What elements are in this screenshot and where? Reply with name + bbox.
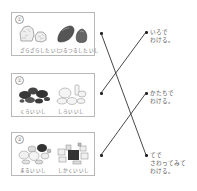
left-dot-2[interactable]: [100, 92, 103, 95]
method-shape-line2: わける。: [150, 97, 174, 105]
method-touch-line2: さわってみて: [150, 159, 186, 167]
method-label-color: いろで わける。: [150, 28, 174, 44]
method-color-line1: いろで: [150, 28, 174, 36]
method-label-shape: かたちで わける。: [150, 89, 174, 105]
connection-line-2: [101, 32, 146, 93]
method-color-line2: わける。: [150, 36, 174, 44]
right-dot-3[interactable]: [145, 154, 148, 157]
method-shape-line1: かたちで: [150, 89, 174, 97]
method-label-touch: てで さわってみて わける。: [150, 151, 186, 175]
right-dot-2[interactable]: [145, 92, 148, 95]
connection-line-3: [101, 93, 146, 155]
connection-line-1: [101, 33, 146, 155]
left-dot-1[interactable]: [100, 32, 103, 35]
left-dot-3[interactable]: [100, 154, 103, 157]
method-touch-line3: わける。: [150, 167, 186, 175]
method-touch-line1: てで: [150, 151, 186, 159]
right-dot-1[interactable]: [145, 31, 148, 34]
